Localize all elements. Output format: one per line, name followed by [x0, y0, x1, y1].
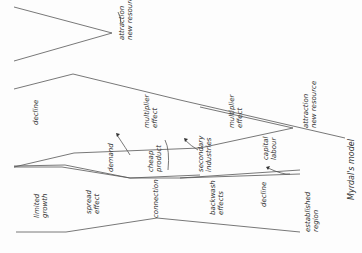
label-demand: demand: [107, 143, 115, 172]
myrdal-model-diagram: attractionnew resource decline multiplie…: [0, 0, 362, 253]
label-secondary-industries: secondaryindustries: [197, 136, 213, 172]
label-multiplier-1: multipliereffect: [143, 95, 159, 128]
label-connection: connection: [152, 179, 160, 218]
label-decline-mid: decline: [260, 182, 268, 207]
label-multiplier-2: multipliereffect: [228, 95, 244, 128]
label-attraction-mid: attractionnew resource: [302, 81, 318, 128]
diagram-title: Myrdal's model: [348, 139, 356, 200]
label-cheap-product: cheapproduct: [147, 145, 163, 172]
label-decline-top: decline: [32, 100, 40, 125]
label-attraction-top: attractionnew resource: [118, 0, 134, 40]
label-limited-growth: limitedgrowth: [33, 193, 49, 218]
label-spread-effect: spreadeffect: [85, 190, 101, 214]
label-backwash-effects: backwasheffects: [209, 180, 225, 215]
label-capital-labour: capitallabour: [262, 136, 278, 160]
label-established-region: establishedregion: [304, 192, 320, 232]
